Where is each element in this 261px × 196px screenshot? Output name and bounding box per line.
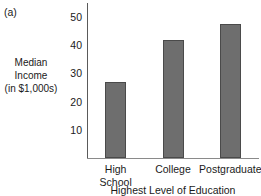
bar-high-school bbox=[105, 82, 126, 158]
y-tick-label-30: 30 bbox=[70, 68, 82, 79]
y-axis-title-line-1: Median bbox=[0, 56, 62, 69]
x-axis-title: Highest Level of Education bbox=[87, 184, 259, 196]
bar-postgraduate bbox=[220, 24, 241, 158]
plot-area: 10 20 30 40 50 High School College Postg… bbox=[87, 3, 259, 159]
bar-college bbox=[163, 40, 184, 158]
y-tick-label-50: 50 bbox=[70, 12, 82, 23]
panel-label: (a) bbox=[4, 6, 17, 18]
y-axis-title: Median Income (in $1,000s) bbox=[0, 56, 62, 95]
y-axis-title-line-2: Income bbox=[0, 69, 62, 82]
y-axis-line bbox=[87, 3, 88, 159]
x-axis-line bbox=[87, 158, 259, 159]
x-tick-label-postgraduate-line-1: Postgraduate bbox=[194, 163, 261, 176]
y-tick-label-40: 40 bbox=[70, 40, 82, 51]
y-axis-title-line-3: (in $1,000s) bbox=[0, 82, 62, 95]
x-tick-label-postgraduate: Postgraduate bbox=[194, 163, 261, 176]
y-tick-label-10: 10 bbox=[70, 124, 82, 135]
y-tick-label-20: 20 bbox=[70, 96, 82, 107]
figure-bar-chart-median-income: (a) Median Income (in $1,000s) 10 20 30 … bbox=[0, 0, 261, 196]
